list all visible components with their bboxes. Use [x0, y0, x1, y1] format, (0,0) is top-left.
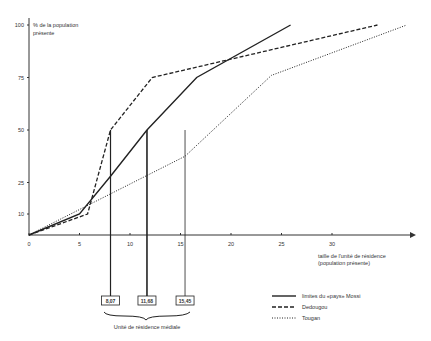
y-tick-label: 50 [18, 127, 24, 133]
legend: limites du «pays» MossiDedougouTougan [272, 293, 360, 321]
median-value: 11,68 [141, 298, 153, 304]
legend-label: Tougan [302, 315, 320, 321]
x-tick-label: 5 [78, 241, 81, 247]
y-tick-label: 75 [18, 75, 24, 81]
y-tick-label: 100 [15, 22, 24, 28]
median-annotations: 8,0711,6815,45Unité de résidence médiale [102, 130, 195, 330]
axes: 10255075100051015202530% de la populatio… [15, 18, 416, 266]
x-axis-label: (population présente) [318, 260, 370, 266]
x-axis-arrow-icon [410, 232, 416, 238]
brace-icon [104, 312, 190, 320]
series-line-solid [29, 25, 291, 235]
x-tick-label: 25 [278, 241, 284, 247]
median-value: 15,45 [179, 298, 192, 304]
series-line-dotted [29, 25, 407, 235]
brace-label: Unité de résidence médiale [114, 324, 181, 330]
y-tick-label: 10 [18, 211, 24, 217]
x-tick-label: 10 [127, 241, 133, 247]
median-value: 8,07 [106, 298, 116, 304]
legend-label: limites du «pays» Mossi [302, 293, 360, 299]
y-tick-label: 25 [18, 180, 24, 186]
series-line-dashed [29, 25, 377, 235]
x-tick-label: 15 [177, 241, 183, 247]
chart: 10255075100051015202530% de la populatio… [0, 0, 431, 341]
y-axis-label: % de la population [33, 22, 78, 28]
x-tick-label: 30 [329, 241, 335, 247]
x-tick-label: 20 [228, 241, 234, 247]
x-axis-label: taille de l'unité de résidence [318, 253, 386, 259]
x-tick-label: 0 [27, 241, 30, 247]
series-lines [29, 25, 407, 235]
y-axis-label: présente [33, 30, 54, 36]
legend-label: Dedougou [302, 304, 327, 310]
